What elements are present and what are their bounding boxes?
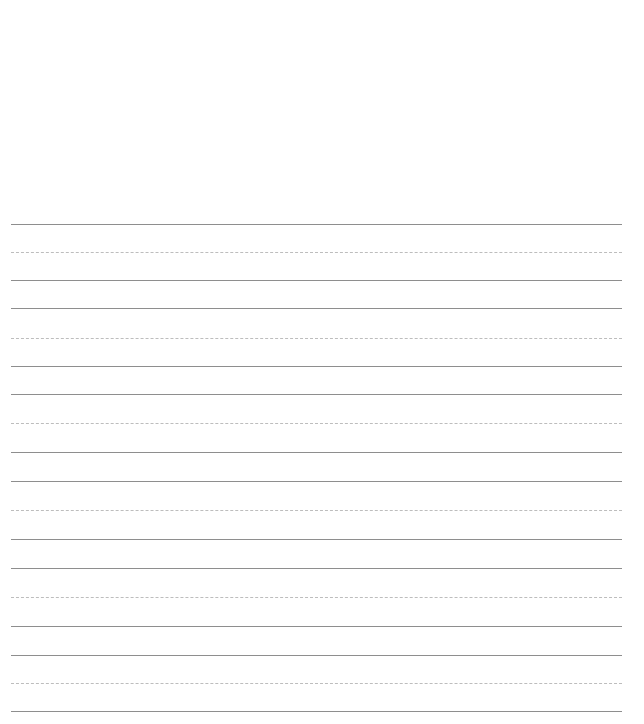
- midline: [11, 597, 622, 598]
- top-line: [11, 394, 622, 395]
- top-line: [11, 224, 622, 225]
- top-line: [11, 655, 622, 656]
- baseline: [11, 280, 622, 281]
- baseline: [11, 452, 622, 453]
- midline: [11, 423, 622, 424]
- baseline: [11, 626, 622, 627]
- baseline: [11, 539, 622, 540]
- midline: [11, 510, 622, 511]
- top-line: [11, 568, 622, 569]
- practice-sheet: [0, 0, 644, 724]
- top-line: [11, 308, 622, 309]
- midline: [11, 683, 622, 684]
- baseline: [11, 711, 622, 712]
- baseline: [11, 366, 622, 367]
- top-line: [11, 481, 622, 482]
- midline: [11, 338, 622, 339]
- midline: [11, 252, 622, 253]
